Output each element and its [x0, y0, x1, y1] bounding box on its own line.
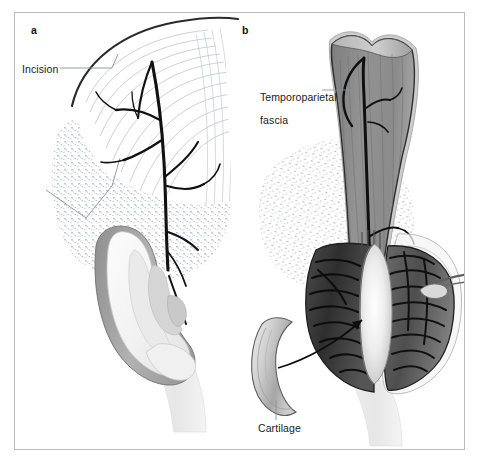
label-temporoparietal-fascia: Temporoparietal fascia: [248, 80, 337, 138]
label-incision: Incision: [22, 64, 58, 76]
label-cartilage: Cartilage: [258, 423, 301, 435]
figure-root: a b Incision Temporoparietal fascia Cart…: [0, 0, 478, 463]
panel-a-illustration: [46, 10, 250, 432]
label-temporoparietal-fascia-line2: fascia: [260, 114, 288, 126]
cartilage-graft-crescent: [252, 318, 296, 416]
illustration-canvas: [0, 0, 478, 463]
panel-label-b: b: [242, 24, 248, 36]
panel-label-a: a: [31, 24, 37, 36]
label-temporoparietal-fascia-line1: Temporoparietal: [260, 91, 337, 103]
